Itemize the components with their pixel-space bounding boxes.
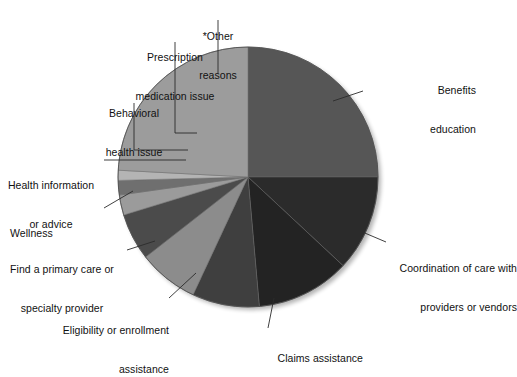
pie-label-eligibility: Eligibility or enrollment assistance: [51, 298, 169, 377]
pie-label-claims-line1: Claims assistance: [233, 352, 363, 365]
pie-label-coordination-line1: Coordination of care with: [389, 262, 517, 275]
pie-label-benefits-line1: Benefits: [366, 84, 476, 97]
pie-label-coordination-line2: providers or vendors: [389, 301, 517, 314]
pie-label-benefits-line2: education: [366, 123, 476, 136]
pie-label-find-provider-line1: Find a primary care or: [2, 263, 122, 276]
pie-label-prescription-line1: Prescription: [83, 51, 267, 64]
pie-label-behavioral-line1: Behavioral: [54, 107, 214, 120]
pie-label-benefits: Benefits education: [366, 58, 476, 162]
pie-label-claims: Claims assistance: [233, 326, 363, 377]
pie-label-coordination: Coordination of care with providers or v…: [389, 236, 517, 340]
pie-label-eligibility-line1: Eligibility or enrollment: [51, 324, 169, 337]
pie-label-eligibility-line2: assistance: [51, 363, 169, 376]
pie-label-health-information-line1: Health information: [2, 179, 100, 192]
